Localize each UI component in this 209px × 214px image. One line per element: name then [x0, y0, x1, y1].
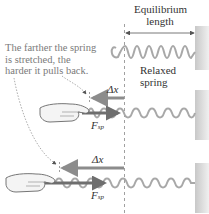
wall-middle [195, 90, 209, 140]
wall-top [195, 26, 209, 70]
note-line3: harder it pulls back. [5, 65, 96, 77]
equilibrium-label-line1: Equilibrium [134, 3, 186, 15]
hand-icon [40, 104, 89, 122]
spring-diagram [0, 0, 209, 214]
relaxed-spring-label: Relaxed spring [140, 64, 176, 88]
force-subscript: sp [98, 123, 104, 131]
spring-force-label-large: Fsp [91, 189, 104, 203]
stretch-note: The farther the spring is stretched, the… [5, 42, 96, 77]
relaxed-label-line2: spring [140, 76, 176, 88]
note-line2: is stretched, the [5, 54, 96, 66]
delta-x-label-large: Δx [92, 153, 103, 165]
force-symbol: F [91, 119, 98, 131]
note-line1: The farther the spring [5, 42, 96, 54]
hand-icon [6, 174, 55, 192]
force-symbol: F [91, 189, 98, 201]
equilibrium-label: Equilibrium length [134, 3, 186, 27]
spring-force-label-small: Fsp [91, 119, 104, 133]
delta-x-label-small: Δx [107, 83, 118, 95]
force-subscript: sp [98, 193, 104, 201]
note-leader-small [62, 76, 86, 94]
equilibrium-label-line2: length [134, 15, 186, 27]
wall-bottom [195, 163, 209, 213]
relaxed-label-line1: Relaxed [140, 64, 176, 76]
